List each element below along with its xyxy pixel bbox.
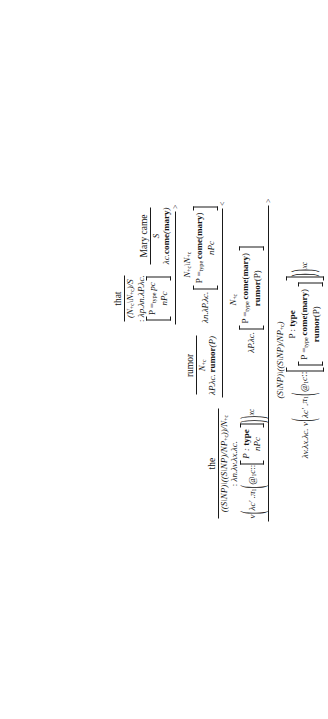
term-root: λv.λx.λc. ν ( λc′ . π1 ( @1c :: P : type	[286, 261, 324, 457]
box-the: P : type nPc	[240, 423, 265, 464]
word-the: the	[207, 453, 218, 473]
leaf-the: the ((S\NP)\((S\NP)/NP+c))/N+c : λn.λv.λ…	[207, 408, 265, 518]
box-root-inner: P =type come(mary) rumor(P)	[298, 282, 323, 365]
conclusion-that-mary-came: N+c\N+c λn.λP.λc. P =type come(mary) nPc	[180, 206, 217, 322]
rule-label-forward: >	[171, 204, 180, 211]
paren-open: (	[286, 417, 323, 421]
box-root-outer: P : type P =type come(mary) rumor(P)	[286, 276, 324, 371]
term-the: ν ( λc′ . π1 ( @1c :: P : type nPc	[240, 408, 265, 518]
bracket-left	[146, 316, 171, 320]
category-root: (S\NP)\((S\NP)/NP+c)	[275, 261, 286, 457]
paren-close: )	[234, 415, 269, 419]
bracket-right	[286, 276, 324, 280]
term-root-body: ν ( λc′ . π1 ( @1c :: P : type	[286, 261, 324, 425]
box-line-0: P : type	[241, 429, 252, 458]
at1c: @1c	[299, 376, 310, 391]
conclusion-root: (S\NP)\((S\NP)/NP+c) λv.λx.λc. ν ( λc′ .…	[273, 261, 324, 457]
figure-canvas: the ((S\NP)\((S\NP)/NP+c))/N+c : λn.λv.λ…	[0, 0, 328, 719]
paren-close-2: )	[234, 419, 269, 423]
bracket-left	[240, 460, 265, 464]
term-rumor-that: λP.λc. P =type come(mary) rumor(P)	[239, 246, 264, 352]
box-that-mary-came: P =type come(mary) nPc	[193, 206, 218, 289]
term-mary-came: λc.come(mary)	[161, 207, 171, 264]
box-line-0: P =type come(mary)	[194, 212, 206, 283]
term-rumor: λP.λc. rumor(P)	[207, 335, 217, 394]
conclusion-rumor-that-mary-came: N+c λP.λc. P =type come(mary) rumor(P)	[227, 246, 264, 352]
box-line-1: rumor(P)	[252, 270, 263, 306]
leaf-mary-came: Mary came S λc.come(mary)	[139, 207, 172, 264]
box-line-inner-0: P =type come(mary)	[299, 288, 311, 359]
box-line-0: P =type come(mary)	[240, 252, 252, 323]
box-line-inner-1: rumor(P)	[311, 306, 322, 342]
category-that: (N+c\N+c)/S	[125, 279, 136, 318]
leaf-rumor: rumor N+c λP.λc. rumor(P)	[185, 335, 218, 394]
box-line-0: P =type pc	[147, 282, 159, 315]
box-that: P =type pc nPc	[146, 276, 171, 321]
node-that-mary-came: that (N+c\N+c)/S : λp.λn.λP.λc.	[113, 204, 218, 324]
paren-close-2: )	[286, 272, 323, 276]
box-line-1: nPc	[206, 240, 217, 254]
at1c: @1c	[247, 469, 258, 484]
bracket-left	[286, 367, 324, 371]
category-mary-came: S	[151, 233, 161, 238]
paren-open: (	[234, 510, 269, 514]
bracket-left	[193, 285, 218, 289]
bracket-left-inner	[298, 361, 323, 365]
category-rumor: N+c	[197, 359, 208, 371]
paren-open-2: (	[286, 392, 323, 396]
binder-that: : λp.λn.λP.λc.	[136, 275, 146, 322]
pi1: π1	[247, 488, 258, 495]
word-rumor: rumor	[185, 349, 196, 380]
premises-that-mary-came: that (N+c\N+c)/S : λp.λn.λP.λc.	[113, 204, 171, 324]
pi1: π1	[299, 396, 310, 403]
bracket-left	[239, 325, 264, 329]
bracket-right	[146, 276, 171, 280]
inference-bar-that-mary-came: >	[171, 204, 180, 324]
binder-the: : λn.λv.λx.λc.	[229, 441, 239, 486]
inference-bar-root: >	[264, 198, 273, 521]
category-the: ((S\NP)\((S\NP)/NP+c))/N+c	[219, 415, 230, 512]
bracket-right	[193, 206, 218, 210]
node-rumor-that-mary-came: rumor N+c λP.λc. rumor(P) that	[113, 201, 264, 397]
category-rumor-that: N+c	[228, 246, 239, 352]
word-mary-came: Mary came	[139, 210, 150, 261]
apply-xc: xc	[248, 408, 256, 414]
bracket-right	[240, 423, 265, 427]
derivation-proof-tree: the ((S\NP)\((S\NP)/NP+c))/N+c : λn.λv.λ…	[113, 198, 328, 521]
paren-close: )	[286, 268, 323, 272]
inference-bar-rumor-that: <	[218, 201, 227, 397]
bracket-right	[239, 246, 264, 250]
premises-rumor-that: rumor N+c λP.λc. rumor(P) that	[113, 201, 218, 397]
term-that-mary-came: λn.λP.λc. P =type come(mary) nPc	[193, 206, 218, 322]
leaf-that: that (N+c\N+c)/S : λp.λn.λP.λc.	[113, 275, 171, 322]
rule-label-backward: <	[218, 201, 227, 208]
box-line-1: nPc	[252, 436, 263, 450]
rule-label-forward-root: >	[264, 198, 273, 205]
box-line-0: P : type	[287, 310, 298, 338]
paren-open-2: (	[234, 484, 269, 488]
bracket-right-inner	[298, 282, 323, 286]
box-rumor-that: P =type come(mary) rumor(P)	[239, 246, 264, 329]
box-line-1: nPc	[159, 291, 170, 305]
term-the-outer: ν ( λc′ . π1 ( @1c :: P : type nPc	[240, 408, 265, 518]
premises-root: the ((S\NP)\((S\NP)/NP+c))/N+c : λn.λv.λ…	[113, 198, 264, 521]
word-that: that	[113, 287, 124, 309]
category-that-mary-came: N+c\N+c	[182, 206, 193, 322]
apply-xc-root: xc	[301, 261, 310, 268]
node-the-rumor-that-mary-came: the ((S\NP)\((S\NP)/NP+c))/N+c : λn.λv.λ…	[113, 198, 324, 521]
